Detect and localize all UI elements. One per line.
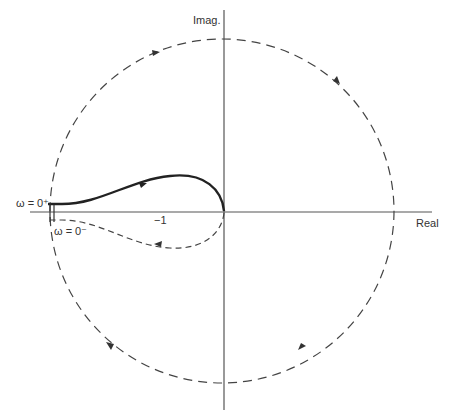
imag-axis-label: Imag. <box>193 14 221 26</box>
arrow-icon <box>298 343 306 350</box>
real-axis-label: Real <box>416 217 439 229</box>
omega-zero-plus-label: ω = 0⁺ <box>16 197 49 210</box>
arrow-icon <box>139 183 147 188</box>
tick-minus-one: −1 <box>154 214 167 226</box>
infinite-contour <box>50 39 394 383</box>
arrow-icon <box>152 50 160 56</box>
omega-zero-minus-label: ω = 0⁻ <box>54 225 87 238</box>
arrow-icon <box>106 342 114 350</box>
nyquist-curve-positive <box>48 175 224 211</box>
nyquist-diagram <box>0 0 463 417</box>
